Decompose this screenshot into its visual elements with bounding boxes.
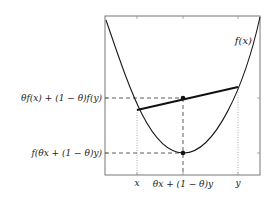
curve-label: f(x) [234,35,252,46]
x-label-y: y [234,178,241,188]
chord-line [137,87,238,110]
y-label-chord: θf(x) + (1 − θ)f(y) [21,93,102,103]
x-label-x: x [134,178,139,188]
x-label-mid: θx + (1 − θ)y [153,179,214,189]
chord-point [181,96,186,101]
function-point [181,151,186,156]
convexity-diagram: f(x) θf(x) + (1 − θ)f(y) f(θx + (1 − θ)y… [0,0,276,201]
y-label-function: f(θx + (1 − θ)y) [30,148,102,158]
